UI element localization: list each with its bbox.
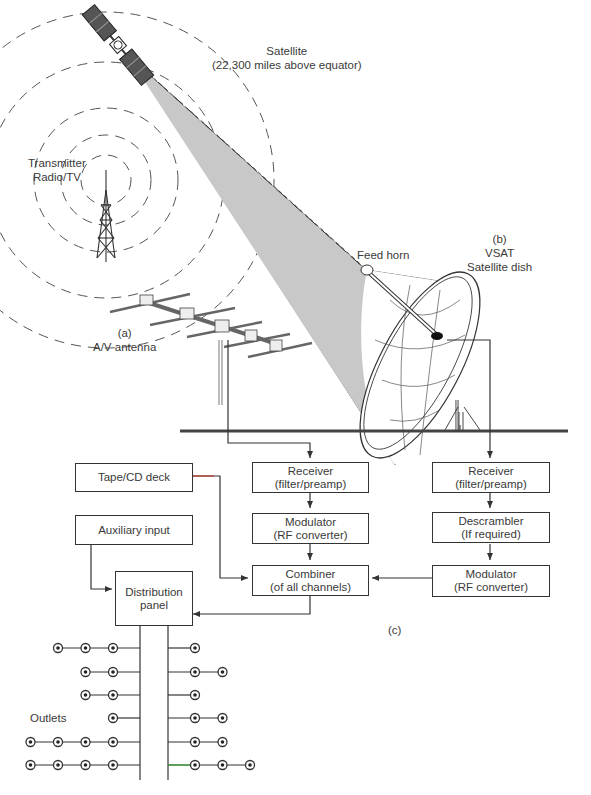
combiner-block: Combiner (of all channels): [252, 565, 369, 596]
dish-label: (b) VSAT Satellite dish: [467, 232, 532, 274]
dish-label-line2: VSAT: [467, 246, 532, 260]
distribution-trunks: [140, 625, 168, 780]
av-antenna-label: (a) A/V antenna: [93, 326, 156, 354]
av-antenna-label-line2: A/V antenna: [93, 340, 156, 354]
satellite-label: Satellite (22,300 miles above equator): [212, 44, 362, 72]
descrambler-line1: Descrambler: [458, 515, 523, 528]
av-antenna-label-line1: (a): [93, 326, 156, 340]
section-c-label: (c): [388, 623, 401, 637]
distribution-panel-line2: panel: [140, 599, 168, 612]
dish-label-line1: (b): [467, 232, 532, 246]
descrambler-line2: (If required): [461, 528, 520, 541]
receiver-a-block: Receiver (filter/preamp): [252, 462, 369, 493]
distribution-panel-line1: Distribution: [125, 586, 183, 599]
satellite-label-line1: Satellite: [212, 44, 362, 58]
outlets-label: Outlets: [30, 711, 66, 725]
modulator-a-line2: (RF converter): [273, 529, 347, 542]
modulator-a-line1: Modulator: [285, 516, 336, 529]
auxiliary-input-block: Auxiliary input: [75, 515, 193, 545]
satellite-icon: [82, 5, 153, 86]
transmitter-tower-icon: [97, 170, 115, 262]
satellite-label-line2: (22,300 miles above equator): [212, 58, 362, 72]
receiver-a-line2: (filter/preamp): [275, 478, 347, 491]
tape-cd-deck-block: Tape/CD deck: [75, 463, 193, 492]
diagram-canvas: [0, 0, 591, 795]
transmitter-label-line2: Radio/TV: [28, 170, 86, 184]
dish-label-line3: Satellite dish: [467, 260, 532, 274]
transmitter-label-line1: Transmitter: [28, 156, 86, 170]
modulator-b-block: Modulator (RF converter): [432, 565, 550, 597]
receiver-b-block: Receiver (filter/preamp): [432, 462, 550, 493]
auxiliary-input-text: Auxiliary input: [98, 524, 170, 537]
combiner-line1: Combiner: [286, 568, 336, 581]
combiner-line2: (of all channels): [270, 581, 351, 594]
modulator-a-block: Modulator (RF converter): [252, 513, 369, 544]
modulator-b-line1: Modulator: [465, 568, 516, 581]
feed-horn-label: Feed horn: [357, 248, 409, 262]
transmitter-label: Transmitter Radio/TV: [28, 156, 86, 184]
modulator-b-line2: (RF converter): [454, 581, 528, 594]
receiver-b-line2: (filter/preamp): [455, 478, 527, 491]
distribution-panel-block: Distribution panel: [115, 571, 193, 626]
descrambler-block: Descrambler (If required): [432, 512, 550, 543]
receiver-a-line1: Receiver: [288, 465, 333, 478]
tape-cd-deck-text: Tape/CD deck: [98, 471, 170, 484]
receiver-b-line1: Receiver: [468, 465, 513, 478]
